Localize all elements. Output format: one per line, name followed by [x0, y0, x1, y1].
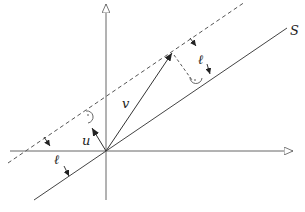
right-angle-dot-right [194, 79, 196, 81]
label-u: u [82, 133, 90, 148]
perpendicular-dashed [174, 55, 192, 80]
label-ell-top: ℓ [198, 52, 204, 67]
vector-u [92, 128, 106, 151]
line-s [34, 28, 287, 200]
distance-arrow-bottom-2 [64, 166, 69, 176]
diagram-canvas: S v u ℓ ℓ [0, 0, 305, 212]
right-angle-dot-left [87, 114, 89, 116]
vector-v [106, 53, 172, 151]
distance-arrow-top-1 [190, 38, 196, 46]
label-v: v [122, 96, 130, 111]
label-s: S [290, 23, 299, 38]
shifted-line-dashed [8, 2, 245, 163]
distance-arrow-bottom-1 [44, 137, 50, 146]
right-angle-mark-left [86, 111, 93, 123]
distance-arrow-top-2 [207, 64, 210, 74]
right-angle-mark-right [190, 77, 202, 84]
label-ell-bottom: ℓ [54, 152, 60, 167]
